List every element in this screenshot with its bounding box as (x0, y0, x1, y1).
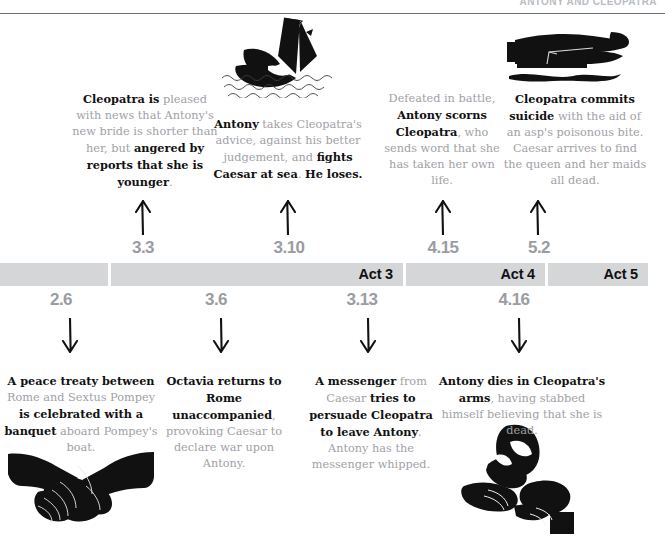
event-text-3-10: Antony takes Cleopatra's advice, against… (213, 116, 363, 183)
act-segment-5-label: Act 5 (604, 266, 638, 282)
arrow-up-3-10 (278, 193, 298, 239)
header-rule (0, 13, 665, 14)
scene-label-3-10: 3.10 (273, 238, 304, 258)
event-text-4-15: Defeated in battle, Antony scorns Cleopa… (378, 91, 506, 189)
scene-label-3-6: 3.6 (205, 290, 227, 310)
arrow-down-3-13 (358, 318, 378, 364)
arrow-up-4-15 (433, 193, 453, 239)
event-text-3-3: Cleopatra is pleased with news that Anto… (72, 91, 218, 191)
event-text-5-2: Cleopatra commits suicide with the aid o… (502, 91, 648, 189)
scene-label-4-15: 4.15 (427, 238, 458, 258)
act-segment-3: Act 3 (111, 263, 403, 286)
arrow-up-5-2 (528, 193, 548, 239)
sinking-ship-icon (222, 16, 340, 98)
arrow-up-3-3 (133, 193, 153, 239)
scene-label-2-6: 2.6 (50, 290, 72, 310)
embracing-figures-icon (458, 424, 584, 536)
act-segment-4: Act 4 (406, 263, 545, 286)
event-text-3-6: Octavia returns to Rome unaccompanied, p… (157, 373, 291, 472)
event-text-2-6: A peace treaty between Rome and Sextus P… (3, 373, 159, 456)
arrow-down-4-16 (509, 318, 529, 364)
scene-label-4-16: 4.16 (498, 290, 529, 310)
event-text-3-13: A messenger from Caesar tries to persuad… (305, 373, 437, 473)
handshake-icon (8, 452, 154, 534)
act-segment-5: Act 5 (548, 263, 648, 286)
arrow-down-3-6 (211, 318, 231, 364)
arrow-down-2-6 (60, 318, 80, 364)
scene-label-5-2: 5.2 (528, 238, 550, 258)
act-segment-2 (0, 263, 108, 286)
scene-label-3-3: 3.3 (132, 238, 154, 258)
scene-label-3-13: 3.13 (346, 290, 377, 310)
corpse-with-asp-icon (497, 24, 631, 86)
event-text-4-16: Antony dies in Cleopatra's arms, having … (437, 373, 607, 439)
act-segment-3-label: Act 3 (359, 266, 393, 282)
act-segment-4-label: Act 4 (501, 266, 535, 282)
running-head: ANTONY AND CLEOPATRA (520, 0, 657, 7)
